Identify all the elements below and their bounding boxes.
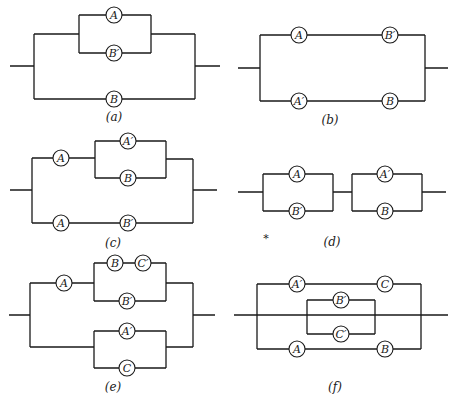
switch-e-A: A xyxy=(56,275,72,291)
switch-c-A-upper: A xyxy=(53,150,69,166)
svg-text:B′: B′ xyxy=(291,205,303,218)
svg-text:B: B xyxy=(109,93,118,106)
switch-a-A: A xyxy=(106,7,122,23)
circuit-b: A B′ A′ B (b) xyxy=(238,27,448,127)
svg-text:B: B xyxy=(380,343,389,356)
svg-text:A: A xyxy=(294,29,303,42)
switch-b-B: B xyxy=(382,93,398,109)
circuit-a: A B′ B (a) xyxy=(10,7,220,124)
switch-d-A: A xyxy=(289,166,305,182)
svg-text:A: A xyxy=(292,343,301,356)
switch-e-C-prime: C′ xyxy=(135,255,151,271)
svg-text:A′: A′ xyxy=(291,278,303,291)
svg-text:A: A xyxy=(56,217,65,230)
switch-e-B: B xyxy=(107,255,123,271)
caption-e: (e) xyxy=(105,380,122,394)
switch-c-A-prime: A′ xyxy=(120,133,136,149)
svg-text:A′: A′ xyxy=(121,325,133,338)
svg-text:B′: B′ xyxy=(122,217,134,230)
circuit-f: A′ C B′ C′ A B (f) xyxy=(234,276,448,394)
switch-f-A-prime: A′ xyxy=(289,276,305,292)
switch-d-B: B xyxy=(377,203,393,219)
circuit-d: A B′ A′ B * (d) xyxy=(238,166,446,249)
switch-c-A-lower: A xyxy=(53,215,69,231)
switch-e-A-prime: A′ xyxy=(119,323,135,339)
caption-a: (a) xyxy=(106,110,123,124)
svg-text:C: C xyxy=(123,362,132,375)
switch-d-A-prime: A′ xyxy=(377,166,393,182)
switch-b-B-prime: B′ xyxy=(382,27,398,43)
switch-f-C: C xyxy=(377,276,393,292)
switch-f-A: A xyxy=(289,341,305,357)
switch-e-B-prime: B′ xyxy=(119,293,135,309)
switch-f-B: B xyxy=(377,341,393,357)
switch-a-B-prime: B′ xyxy=(106,45,122,61)
caption-c: (c) xyxy=(105,236,121,250)
svg-text:A: A xyxy=(109,9,118,22)
switch-f-C-prime: C′ xyxy=(333,326,349,342)
svg-text:A: A xyxy=(56,152,65,165)
switch-b-A: A xyxy=(291,27,307,43)
asterisk-mark: * xyxy=(263,232,269,245)
switch-c-B: B xyxy=(120,170,136,186)
svg-text:B: B xyxy=(110,257,119,270)
svg-text:B: B xyxy=(385,95,394,108)
svg-text:A: A xyxy=(292,168,301,181)
switching-circuits-figure: A B′ B (a) A B′ A′ B (b) xyxy=(0,0,456,399)
circuit-c: A A′ B A B′ (c) xyxy=(10,133,217,250)
caption-b: (b) xyxy=(321,113,338,127)
switch-b-A-prime: A′ xyxy=(291,93,307,109)
svg-text:A: A xyxy=(59,277,68,290)
svg-text:B: B xyxy=(123,172,132,185)
switch-c-B-prime: B′ xyxy=(120,215,136,231)
svg-text:B′: B′ xyxy=(384,29,396,42)
caption-f: (f) xyxy=(328,380,342,394)
switch-f-B-prime: B′ xyxy=(333,292,349,308)
svg-text:A′: A′ xyxy=(293,95,305,108)
svg-text:C′: C′ xyxy=(138,257,149,270)
svg-text:C′: C′ xyxy=(336,328,347,341)
svg-text:B′: B′ xyxy=(108,47,120,60)
svg-text:B′: B′ xyxy=(121,295,133,308)
switch-d-B-prime: B′ xyxy=(289,203,305,219)
switch-e-C: C xyxy=(119,360,135,376)
caption-d: (d) xyxy=(323,235,340,249)
switch-a-B: B xyxy=(106,91,122,107)
svg-text:B′: B′ xyxy=(335,294,347,307)
svg-text:B: B xyxy=(380,205,389,218)
svg-text:A′: A′ xyxy=(122,135,134,148)
svg-text:A′: A′ xyxy=(379,168,391,181)
svg-text:C: C xyxy=(381,278,390,291)
circuit-e: A B C′ B′ A′ C (e) xyxy=(9,255,215,394)
